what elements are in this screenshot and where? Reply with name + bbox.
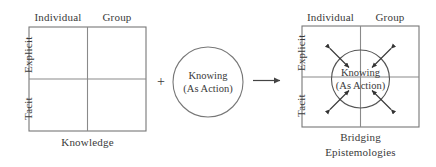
left-row-label-tacit: Tacit: [22, 97, 34, 120]
bridging-circle-line2: (As Action): [325, 79, 396, 92]
right-matrix-caption-line2: Epistemologies: [302, 146, 419, 158]
left-matrix-grid: [29, 27, 146, 131]
right-row-label-tacit: Tacit: [295, 94, 307, 117]
right-matrix-caption-line1: Bridging: [302, 131, 419, 143]
right-column-label-individual: Individual: [301, 11, 360, 23]
plus-operator: +: [157, 74, 165, 90]
left-row-label-explicit: Explicit: [22, 37, 34, 73]
figure-container: Individual Group Explicit Tacit Knowledg…: [0, 0, 436, 167]
left-column-label-individual: Individual: [29, 11, 87, 23]
knowing-circle-line1: Knowing: [173, 69, 243, 82]
right-row-label-explicit: Explicit: [295, 35, 307, 71]
left-column-label-group: Group: [88, 11, 146, 23]
left-matrix-caption: Knowledge: [29, 136, 146, 148]
knowing-circle-line2: (As Action): [173, 82, 243, 95]
right-column-label-group: Group: [361, 11, 419, 23]
bridging-circle-line1: Knowing: [325, 66, 396, 79]
